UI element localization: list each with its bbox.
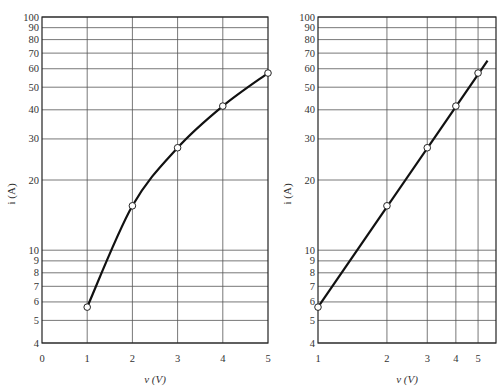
- data-curve: [318, 61, 488, 308]
- x-tick-label: 3: [425, 353, 430, 364]
- data-point-marker: [84, 304, 91, 311]
- x-tick-label: 3: [175, 353, 180, 364]
- y-tick-label: 50: [305, 82, 316, 93]
- y-tick-label: 80: [29, 34, 40, 45]
- y-tick-label: 50: [29, 82, 40, 93]
- y-axis-label: i (A): [281, 183, 294, 204]
- data-point-marker: [174, 144, 181, 151]
- y-tick-label: 10: [305, 245, 316, 256]
- y-tick-label: 40: [29, 104, 40, 115]
- y-tick-label: 90: [29, 22, 40, 33]
- y-tick-label: 5: [310, 315, 315, 326]
- y-axis-label: i (A): [5, 183, 18, 204]
- data-point-marker: [129, 203, 136, 210]
- y-tick-label: 60: [29, 63, 40, 74]
- data-point-marker: [265, 70, 272, 77]
- y-tick-label: 80: [305, 34, 316, 45]
- data-point-marker: [424, 144, 431, 151]
- y-tick-label: 4: [34, 338, 40, 349]
- data-point-marker: [315, 304, 322, 311]
- x-tick-label: 5: [475, 353, 480, 364]
- y-tick-label: 8: [34, 267, 39, 278]
- x-tick-label: 1: [85, 353, 90, 364]
- y-tick-label: 40: [305, 104, 316, 115]
- y-tick-label: 6: [34, 296, 39, 307]
- x-tick-label: 4: [220, 353, 226, 364]
- y-tick-label: 8: [310, 267, 315, 278]
- y-tick-label: 100: [23, 12, 39, 23]
- y-tick-label: 20: [305, 175, 316, 186]
- y-tick-label: 90: [305, 22, 316, 33]
- chart-canvas: 456789102030405060708090100012345v (V)i …: [0, 0, 504, 389]
- x-tick-label: 0: [39, 353, 44, 364]
- x-tick-label: 2: [130, 353, 135, 364]
- y-tick-label: 20: [29, 175, 40, 186]
- y-tick-label: 70: [305, 48, 316, 59]
- data-point-marker: [453, 103, 460, 110]
- y-tick-label: 60: [305, 63, 316, 74]
- x-tick-label: 1: [315, 353, 320, 364]
- y-tick-label: 9: [310, 255, 315, 266]
- x-tick-label: 5: [265, 353, 270, 364]
- y-tick-label: 30: [29, 133, 40, 144]
- x-tick-label: 4: [453, 353, 459, 364]
- y-tick-label: 9: [34, 255, 39, 266]
- data-point-marker: [384, 203, 391, 210]
- y-tick-label: 5: [34, 315, 39, 326]
- semilog-chart: 456789102030405060708090100012345v (V)i …: [5, 12, 271, 387]
- y-tick-label: 100: [299, 12, 315, 23]
- y-tick-label: 70: [29, 48, 40, 59]
- y-tick-label: 7: [34, 281, 39, 292]
- y-tick-label: 6: [310, 296, 315, 307]
- x-tick-label: 2: [384, 353, 389, 364]
- y-tick-label: 10: [29, 245, 40, 256]
- data-point-marker: [220, 103, 227, 110]
- x-axis-label: v (V): [396, 373, 418, 386]
- y-tick-label: 4: [310, 338, 316, 349]
- y-tick-label: 7: [310, 281, 315, 292]
- x-axis-label: v (V): [144, 373, 166, 386]
- y-tick-label: 30: [305, 133, 316, 144]
- data-point-marker: [475, 70, 482, 77]
- loglog-chart: 45678910203040506070809010012345v (V)i (…: [281, 12, 496, 387]
